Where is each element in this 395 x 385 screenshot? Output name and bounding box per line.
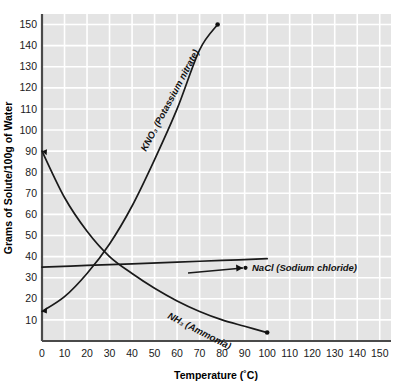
x-tick-40: 40 [126,347,138,359]
x-tick-150: 150 [371,347,389,359]
y-tick-80: 80 [25,166,37,178]
x-tick-100: 100 [258,347,276,359]
nacl-series-label: NaCl (Sodium chloride) [252,262,357,273]
x-tick-0: 0 [39,347,45,359]
x-tick-60: 60 [171,347,183,359]
endpoint-dot-series-0 [215,22,220,27]
x-axis-title: Temperature (˚C) [174,369,258,381]
x-tick-140: 140 [348,347,366,359]
y-axis-tick-labels: 102030405060708090100110120130140150 [19,18,37,325]
y-tick-110: 110 [20,103,37,115]
y-tick-140: 140 [19,39,37,51]
y-tick-30: 30 [25,271,37,283]
y-tick-60: 60 [25,208,37,220]
y-tick-130: 130 [19,60,37,72]
y-tick-10: 10 [25,314,37,326]
x-tick-50: 50 [149,347,161,359]
y-tick-90: 90 [25,145,37,157]
y-tick-20: 20 [25,292,37,304]
plot-background [42,14,391,341]
x-tick-20: 20 [81,347,93,359]
x-axis-tick-labels: 0102030405060708090100110120130140150 [39,347,389,359]
solubility-chart: 0102030405060708090100110120130140150 10… [0,0,395,385]
x-tick-10: 10 [59,347,71,359]
x-tick-110: 110 [281,347,298,359]
endpoint-dot-series-2 [265,330,270,335]
y-tick-100: 100 [19,124,37,136]
y-tick-70: 70 [25,187,37,199]
y-tick-120: 120 [19,81,37,93]
x-tick-90: 90 [239,347,251,359]
x-tick-130: 130 [326,347,344,359]
x-tick-70: 70 [194,347,206,359]
x-tick-30: 30 [104,347,116,359]
y-tick-40: 40 [25,250,37,262]
y-tick-50: 50 [25,229,37,241]
nacl-endpoint-dot [243,266,247,270]
chart-canvas: 0102030405060708090100110120130140150 10… [0,0,395,385]
y-tick-150: 150 [19,18,37,30]
y-axis-title: Grams of Solute/100g of Water [2,102,14,254]
x-tick-120: 120 [303,347,321,359]
